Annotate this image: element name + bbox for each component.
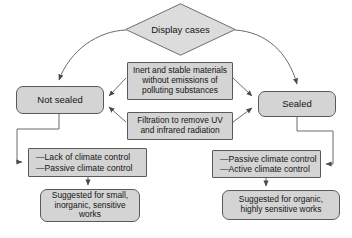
edge-root-to-not-sealed [59, 30, 126, 80]
node-filtration-uv-infrared-text: Filtration to remove UV and infrared rad… [128, 116, 232, 136]
node-sealed-label: Sealed [259, 98, 335, 109]
suggestion-left-line-2: inorganic, sensitive [54, 200, 125, 210]
suggestion-left-line-3: works [79, 209, 101, 219]
node-climate-control-right[interactable]: —Passive climate control —Active climate… [212, 150, 321, 178]
node-suggestion-right-text: Suggested for organic, highly sensitive … [223, 195, 339, 215]
edge-root-to-sealed [235, 30, 297, 84]
edge-filtration-to-sealed [233, 108, 252, 122]
node-climate-control-left[interactable]: —Lack of climate control —Passive climat… [28, 148, 147, 177]
edge-filtration-to-not-sealed [109, 107, 126, 122]
materials-line-3: polluting substances [142, 85, 218, 95]
node-suggestion-left-text: Suggested for small, inorganic, sensitiv… [41, 191, 139, 221]
node-display-cases[interactable]: Display cases [125, 3, 236, 56]
node-not-sealed-label: Not sealed [17, 94, 103, 105]
node-inert-stable-materials-text: Inert and stable materials without emiss… [128, 66, 232, 96]
suggestion-right-line-2: highly sensitive works [241, 204, 322, 214]
node-display-cases-label: Display cases [125, 24, 236, 35]
flowchart-canvas: Display cases Not sealed Sealed Inert an… [0, 0, 352, 238]
node-sealed[interactable]: Sealed [258, 91, 336, 117]
node-climate-control-right-text: —Passive climate control —Active climate… [213, 154, 320, 174]
climate-right-line-1: —Passive climate control [220, 154, 316, 164]
node-suggestion-right[interactable]: Suggested for organic, highly sensitive … [222, 190, 340, 220]
materials-line-2: without emissions of [142, 75, 217, 85]
climate-right-line-2: —Active climate control [220, 164, 310, 174]
materials-line-1: Inert and stable materials [133, 65, 227, 75]
suggestion-right-line-1: Suggested for organic, [239, 194, 323, 204]
node-climate-control-left-text: —Lack of climate control —Passive climat… [29, 152, 146, 172]
climate-left-line-1: —Lack of climate control [36, 152, 130, 162]
node-filtration-uv-infrared[interactable]: Filtration to remove UV and infrared rad… [127, 112, 233, 140]
filtration-line-1: Filtration to remove UV [137, 115, 223, 125]
edge-materials-to-sealed [233, 78, 252, 96]
suggestion-left-line-1: Suggested for small, [52, 190, 128, 200]
node-not-sealed[interactable]: Not sealed [16, 86, 104, 114]
node-suggestion-left[interactable]: Suggested for small, inorganic, sensitiv… [40, 189, 140, 222]
edge-materials-to-not-sealed [109, 78, 126, 96]
filtration-line-2: and infrared radiation [140, 125, 219, 135]
node-inert-stable-materials[interactable]: Inert and stable materials without emiss… [127, 62, 233, 100]
climate-left-line-2: —Passive climate control [36, 163, 132, 173]
